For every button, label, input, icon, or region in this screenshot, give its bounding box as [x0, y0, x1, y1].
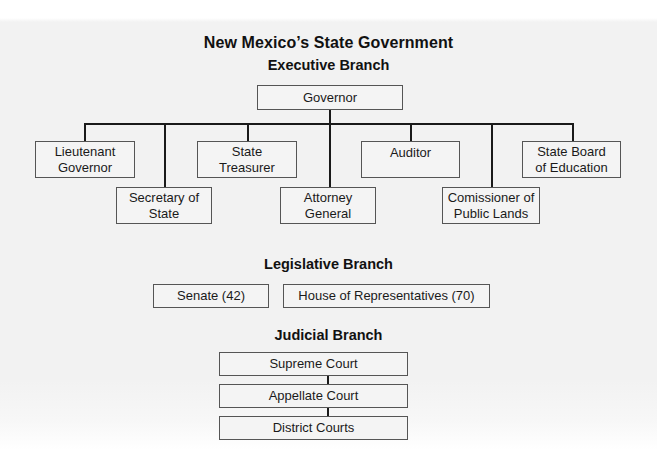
office-line1: Attorney [304, 190, 352, 206]
appellate-court-box: Appellate Court [219, 384, 408, 408]
senate-box: Senate (42) [153, 284, 269, 308]
connector-auditor [410, 123, 412, 141]
senate-label: Senate (42) [177, 288, 245, 304]
office-line2: Treasurer [219, 160, 275, 176]
office-line1: Secretary of [129, 190, 199, 206]
governor-label: Governor [303, 90, 357, 106]
connector-commissioner [491, 123, 493, 187]
house-label: House of Representatives (70) [298, 288, 474, 304]
supreme-court-box: Supreme Court [219, 352, 408, 376]
connector-appellate-district [327, 408, 329, 416]
office-line2: Public Lands [448, 206, 535, 222]
office-line1: State [219, 144, 275, 160]
office-line2: of Education [535, 160, 607, 176]
office-line2: General [304, 206, 352, 222]
lieutenant-governor-box: Lieutenant Governor [35, 141, 135, 178]
attorney-general-box: Attorney General [280, 187, 376, 224]
office-line1: State Board [535, 144, 607, 160]
secretary-of-state-box: Secretary of State [116, 187, 212, 224]
executive-branch-heading: Executive Branch [0, 57, 657, 73]
office-line1: Lieutenant [55, 144, 116, 160]
state-treasurer-box: State Treasurer [197, 141, 297, 178]
diagram-title: New Mexico’s State Government [0, 34, 657, 52]
house-box: House of Representatives (70) [283, 284, 490, 308]
connector-secretary-of-state [164, 123, 166, 187]
office-line2: Governor [55, 160, 116, 176]
commissioner-public-lands-box: Comissioner of Public Lands [442, 187, 540, 224]
connector-supreme-appellate [327, 376, 329, 384]
legislative-branch-heading: Legislative Branch [0, 256, 657, 272]
executive-horizontal-line [84, 123, 573, 125]
office-line2: State [129, 206, 199, 222]
district-courts-box: District Courts [219, 416, 408, 440]
office-line1: Comissioner of [448, 190, 535, 206]
connector-state-board [572, 123, 574, 141]
governor-trunk-line [329, 110, 331, 187]
state-board-of-education-box: State Board of Education [522, 141, 621, 178]
district-courts-label: District Courts [273, 420, 355, 436]
connector-lieutenant-governor [84, 123, 86, 141]
connector-state-treasurer [247, 123, 249, 141]
office-line1: Auditor [390, 145, 431, 161]
governor-box: Governor [257, 85, 403, 110]
auditor-box: Auditor [361, 141, 460, 178]
supreme-court-label: Supreme Court [269, 356, 357, 372]
appellate-court-label: Appellate Court [269, 388, 359, 404]
judicial-branch-heading: Judicial Branch [0, 327, 657, 343]
